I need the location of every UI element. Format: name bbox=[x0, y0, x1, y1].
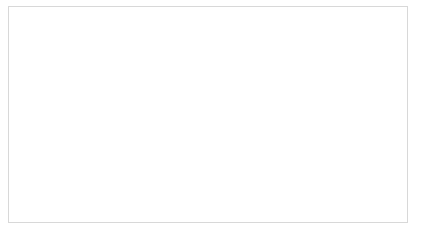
figure-border bbox=[8, 6, 408, 223]
chart-figure: 0500100015002000250030003500400045005000… bbox=[0, 0, 422, 241]
